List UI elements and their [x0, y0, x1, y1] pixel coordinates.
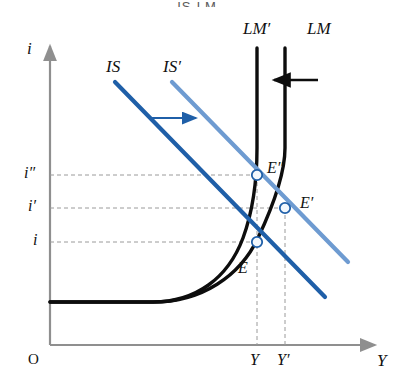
- y-tick-i-prime: i′: [28, 198, 36, 214]
- is-prime-label: IS′: [163, 58, 181, 75]
- guide-lines: [50, 175, 285, 345]
- point-E-marker: [252, 237, 262, 247]
- is-label: IS: [106, 58, 120, 75]
- point-E-double-prime-label: E″: [267, 160, 283, 176]
- x-tick-Y: Y: [250, 352, 259, 368]
- is-lm-figure: IS-LM: [0, 0, 395, 392]
- x-axis-label: Y: [377, 352, 386, 369]
- is-curve: [115, 82, 325, 297]
- lm-label: LM: [307, 20, 331, 37]
- point-E-double-prime-marker: [252, 170, 262, 180]
- x-tick-Y-prime: Y′: [277, 352, 289, 368]
- point-E-prime-label: E′: [300, 195, 313, 211]
- point-E-prime-marker: [280, 203, 290, 213]
- lm-prime-label: LM′: [243, 20, 270, 37]
- y-tick-i: i: [33, 232, 37, 248]
- is-lm-plot: [0, 0, 395, 392]
- point-E-label: E: [238, 260, 248, 276]
- y-tick-i-double-prime: i″: [24, 165, 35, 181]
- y-axis-label: i: [27, 40, 32, 57]
- origin-label: O: [28, 352, 39, 367]
- axes: [50, 46, 375, 345]
